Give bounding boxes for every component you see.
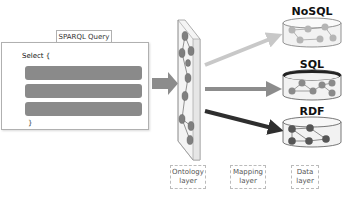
mapping-layer-label: Mapping layer bbox=[230, 165, 266, 189]
nosql-database-icon bbox=[283, 18, 341, 47]
ontology-plane bbox=[178, 20, 200, 160]
arrow-to-rdf bbox=[205, 111, 276, 129]
nosql-label: NoSQL bbox=[290, 5, 334, 18]
rdf-label: RDF bbox=[290, 105, 334, 118]
ontology-node bbox=[182, 32, 188, 41]
arrow-to-nosql bbox=[205, 37, 275, 65]
ontology-node bbox=[179, 49, 185, 58]
ontology-node bbox=[188, 122, 194, 131]
sql-database-icon bbox=[283, 70, 341, 100]
ontology-node bbox=[182, 92, 188, 101]
ontology-node bbox=[188, 47, 194, 56]
sql-label: SQL bbox=[290, 58, 334, 71]
ontology-node bbox=[179, 115, 185, 124]
rdf-database-icon bbox=[283, 117, 341, 147]
ontology-node bbox=[185, 74, 191, 83]
data-layer-label: Data layer bbox=[291, 165, 319, 189]
ontology-node bbox=[186, 60, 191, 67]
ontology-layer-label: Ontology layer bbox=[170, 165, 206, 189]
query-to-ontology-arrow bbox=[152, 72, 178, 95]
ontology-node bbox=[187, 136, 193, 145]
